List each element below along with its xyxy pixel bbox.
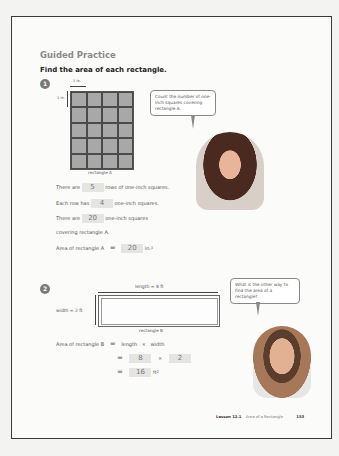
length-arrow bbox=[98, 292, 218, 293]
answer-length: 8 bbox=[129, 354, 151, 363]
boy-photo bbox=[253, 326, 311, 398]
dimension-label-horizontal: 1 in. bbox=[73, 79, 81, 83]
answer-width: 2 bbox=[169, 354, 191, 363]
area-a-line: Area of rectangle A = 20 in.² bbox=[56, 244, 153, 253]
result-line: = 16 ft² bbox=[117, 368, 159, 377]
speech-bubble-boy: What is the other way to find the area o… bbox=[230, 278, 300, 304]
rectangle-a-grid bbox=[70, 91, 134, 170]
answer-total: 20 bbox=[82, 214, 104, 223]
answer-per-row: 4 bbox=[91, 199, 113, 208]
dimension-arrow-vertical bbox=[67, 91, 68, 107]
row-length-line: Each row has 4 one-inch squares. bbox=[56, 199, 159, 208]
girl-photo bbox=[196, 132, 264, 210]
footer: Lesson 12.1 Area of a Rectangle 153 bbox=[216, 414, 304, 419]
dimension-arrow-horizontal bbox=[70, 86, 86, 87]
substitution-line: = 8 × 2 bbox=[117, 354, 191, 363]
total-squares-line: There are 20 one-inch squares bbox=[56, 214, 148, 223]
width-label: width = 2 ft bbox=[56, 308, 83, 313]
width-arrow bbox=[95, 295, 96, 325]
section-title: Guided Practice bbox=[40, 50, 116, 60]
instruction: Find the area of each rectangle. bbox=[40, 66, 167, 74]
problem-number-badge: 1 bbox=[40, 79, 50, 89]
speech-bubble-tail bbox=[191, 115, 195, 129]
formula-line: Area of rectangle B = length × width bbox=[56, 340, 164, 348]
page-number: 153 bbox=[296, 414, 304, 419]
row-count-line: There are 5 rows of one-inch squares. bbox=[56, 183, 169, 192]
dimension-label-vertical: 1 in. bbox=[57, 96, 65, 100]
rectangle-b bbox=[98, 295, 220, 327]
speech-bubble-girl: Count the number of one-inch squares cov… bbox=[150, 90, 216, 116]
length-label: length = 8 ft bbox=[135, 284, 164, 289]
answer-rows: 5 bbox=[82, 183, 104, 192]
rectangle-a-label: rectangle A bbox=[88, 170, 112, 175]
rectangle-b-label: rectangle B bbox=[139, 328, 163, 333]
problem-number-badge: 2 bbox=[40, 284, 50, 294]
lesson-title: Area of a Rectangle bbox=[246, 414, 283, 419]
speech-bubble-tail bbox=[256, 302, 260, 316]
lesson-number: Lesson 12.1 bbox=[216, 414, 242, 419]
answer-area-a: 20 bbox=[121, 244, 143, 253]
answer-area-b: 16 bbox=[129, 368, 151, 377]
covering-line: covering rectangle A. bbox=[56, 229, 109, 235]
